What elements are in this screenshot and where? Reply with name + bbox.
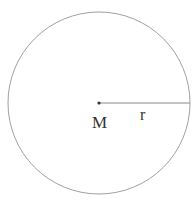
center-point bbox=[97, 101, 100, 104]
radius-label: r bbox=[140, 106, 146, 123]
circle-diagram: M r bbox=[0, 0, 195, 208]
center-label: M bbox=[92, 113, 107, 132]
